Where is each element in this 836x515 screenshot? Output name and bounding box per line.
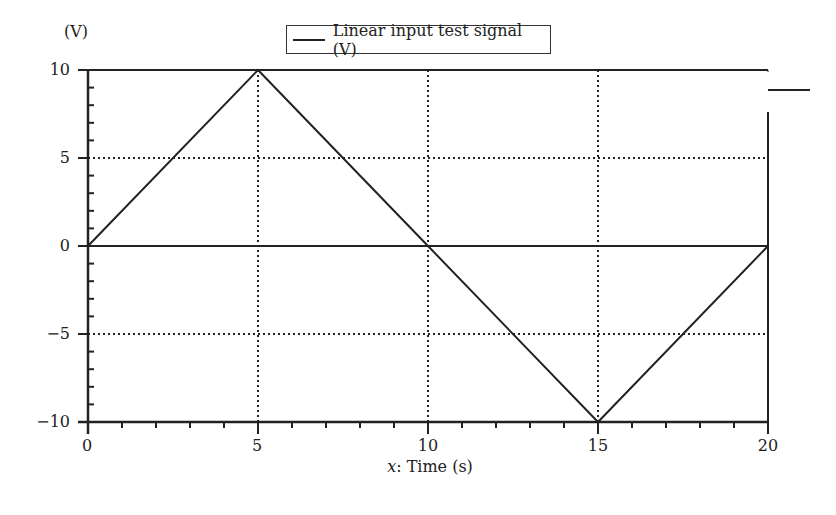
y-axis-unit-label: (V) [64,24,88,40]
x-tick-label: 5 [237,438,277,454]
x-tick-label: 10 [408,438,448,454]
y-tick-label: −10 [20,414,70,430]
y-tick-label: 10 [20,62,70,78]
y-tick-label: −5 [20,326,70,342]
legend-label: Linear input test signal (V) [333,21,550,59]
legend-line-swatch-icon [293,39,325,41]
x-axis-label-text: : Time (s) [396,457,473,476]
x-axis-variable: x [387,457,396,476]
x-axis-label: x: Time (s) [340,457,520,476]
x-tick-label: 0 [67,438,107,454]
x-tick-label: 15 [578,438,618,454]
y-tick-label: 5 [20,150,70,166]
x-tick-label: 20 [748,438,788,454]
y-tick-label: 0 [20,238,70,254]
legend: Linear input test signal (V) [286,25,551,54]
